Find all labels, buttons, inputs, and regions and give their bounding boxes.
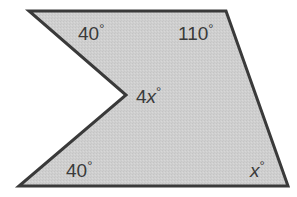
- polygon-diagram: 40° 110° 4x° 40° x°: [0, 0, 297, 197]
- angle-label-top-right: 110°: [178, 21, 214, 44]
